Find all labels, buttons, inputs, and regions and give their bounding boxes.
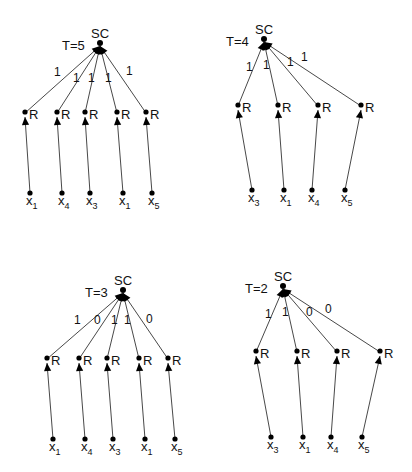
leaf-label: x5 <box>148 193 160 211</box>
relay-label: R <box>384 346 393 361</box>
relay-label: R <box>89 107 98 122</box>
relay-node <box>235 102 240 107</box>
edge-leaf-to-relay <box>25 117 30 193</box>
leaf-label: x5 <box>358 437 370 455</box>
relay-node <box>294 348 299 353</box>
leaf-label: x5 <box>341 190 353 208</box>
threshold-label: T=4 <box>226 34 249 49</box>
relay-label: R <box>282 100 291 115</box>
panel-t2: SCT=21100Rx3Rx1Rx4Rx5 <box>245 269 393 455</box>
leaf-label: x1 <box>49 439 61 457</box>
leaf-label: x3 <box>267 437 279 455</box>
leaf-label: x4 <box>58 193 70 211</box>
relay-node <box>22 109 27 114</box>
leaf-label: x1 <box>141 439 153 457</box>
edge-leaf-to-relay <box>331 356 337 437</box>
leaf-label: x4 <box>327 437 339 455</box>
arrowhead-icon <box>375 356 382 365</box>
relay-label: R <box>150 107 159 122</box>
relay-node <box>253 348 258 353</box>
edge-weight-label: 1 <box>287 55 294 69</box>
edge-weight-label: 0 <box>94 313 101 327</box>
relay-node <box>315 102 320 107</box>
edge-leaf-to-relay <box>79 363 85 439</box>
relay-node <box>44 355 49 360</box>
relay-label: R <box>111 353 120 368</box>
edge-weight-label: 1 <box>54 65 61 79</box>
edge-weight-label: 1 <box>301 50 308 64</box>
relay-label: R <box>83 353 92 368</box>
relay-label: R <box>242 100 251 115</box>
edge-weight-label: 0 <box>306 305 313 319</box>
leaf-label: x1 <box>280 190 292 208</box>
edge-leaf-to-relay <box>107 363 113 439</box>
leaf-label: x4 <box>81 439 93 457</box>
leaf-label: x4 <box>308 190 320 208</box>
panel-t3: SCT=310110Rx1Rx4Rx3Rx1Rx5 <box>44 273 182 457</box>
edge-relay-to-sc <box>264 42 361 106</box>
edge-leaf-to-relay <box>256 356 271 437</box>
leaf-label: x3 <box>248 190 260 208</box>
diagram-canvas: SCT=511111Rx1Rx4Rx3Rx1Rx5SCT=41111Rx3Rx1… <box>0 0 412 472</box>
edge-weight-label: 0 <box>146 312 153 326</box>
threshold-label: T=3 <box>85 285 108 300</box>
edge-leaf-to-relay <box>345 110 361 190</box>
relay-label: R <box>172 353 181 368</box>
edge-leaf-to-relay <box>312 110 318 190</box>
leaf-label: x1 <box>26 193 38 211</box>
relay-node <box>358 102 363 107</box>
edge-leaf-to-relay <box>57 117 62 193</box>
edge-weight-label: 1 <box>111 313 118 327</box>
edge-leaf-to-relay <box>168 363 175 439</box>
edge-leaf-to-relay <box>297 356 303 437</box>
edge-leaf-to-relay <box>238 110 252 190</box>
sc-label: SC <box>91 26 109 41</box>
relay-node <box>54 109 59 114</box>
arrowhead-icon <box>333 356 340 364</box>
sc-label: SC <box>274 269 292 284</box>
edge-leaf-to-relay <box>139 363 145 439</box>
sc-label: SC <box>255 22 273 37</box>
edge-weight-label: 1 <box>263 58 270 72</box>
threshold-label: T=5 <box>62 38 85 53</box>
edge-weight-label: 1 <box>88 71 95 85</box>
relay-node <box>82 109 87 114</box>
leaf-label: x5 <box>171 439 183 457</box>
relay-node <box>165 355 170 360</box>
edge-leaf-to-relay <box>117 117 123 193</box>
edge-leaf-to-relay <box>85 117 90 193</box>
relay-label: R <box>143 353 152 368</box>
edge-weight-label: 1 <box>265 307 272 321</box>
edge-leaf-to-relay <box>362 356 380 437</box>
edge-leaf-to-relay <box>47 363 53 439</box>
relay-node <box>275 102 280 107</box>
edge-relay-to-sc <box>264 42 318 106</box>
relay-label: R <box>260 346 269 361</box>
edge-weight-label: 1 <box>73 71 80 85</box>
edge-weight-label: 1 <box>126 64 133 78</box>
edge-leaf-to-relay <box>146 117 152 193</box>
edge-relay-to-sc <box>283 289 337 352</box>
relay-label: R <box>301 346 310 361</box>
panel-t4: SCT=41111Rx3Rx1Rx4Rx5 <box>226 22 374 208</box>
edge-weight-label: 1 <box>246 60 253 74</box>
relay-node <box>136 355 141 360</box>
edge-relay-to-sc <box>283 289 297 352</box>
relay-node <box>377 348 382 353</box>
leaf-label: x3 <box>86 193 98 211</box>
relay-label: R <box>121 107 130 122</box>
edge-weight-label: 1 <box>124 313 131 327</box>
relay-label: R <box>365 100 374 115</box>
sc-label: SC <box>114 273 132 288</box>
panel-t5: SCT=511111Rx1Rx4Rx3Rx1Rx5 <box>22 26 160 211</box>
edge-weight-label: 1 <box>105 71 112 85</box>
leaf-label: x1 <box>119 193 131 211</box>
leaf-label: x3 <box>109 439 121 457</box>
arrowhead-icon <box>314 110 321 118</box>
edge-weight-label: 1 <box>282 305 289 319</box>
relay-label: R <box>341 346 350 361</box>
relay-node <box>104 355 109 360</box>
relay-node <box>76 355 81 360</box>
edge-leaf-to-relay <box>278 110 284 190</box>
edge-relay-to-sc <box>264 42 278 106</box>
